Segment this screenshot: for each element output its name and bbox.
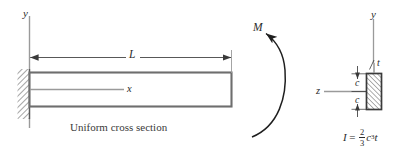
moment-arc	[252, 34, 285, 138]
moment-label: M	[253, 22, 263, 34]
cantilever-beam-figure: y L x Uniform cross section M y z c c t …	[0, 0, 403, 151]
formula-denominator: 3	[359, 138, 365, 147]
thickness-label: t	[377, 58, 380, 68]
fixed-support-wall	[18, 69, 30, 119]
formula-fraction: 2 3	[359, 128, 365, 147]
formula-equals: =	[349, 132, 355, 143]
formula-numerator: 2	[359, 128, 365, 137]
formula-lhs: I	[343, 132, 347, 143]
cross-section-rectangle	[367, 74, 382, 110]
thickness-dimension	[370, 60, 375, 73]
span-length-label: L	[129, 49, 135, 61]
c-dimension-lower	[352, 104, 367, 117]
c-upper-label: c	[355, 78, 359, 88]
moment-of-inertia-formula: I = 2 3 c 3 t	[343, 128, 378, 147]
figure-caption: Uniform cross section	[70, 122, 167, 133]
y-axis-left-label: y	[23, 8, 28, 19]
z-axis-label: z	[316, 86, 320, 97]
c-lower-label: c	[355, 95, 359, 105]
x-axis-label: x	[127, 84, 132, 95]
y-axis-right-label: y	[371, 9, 376, 20]
formula-var-t: t	[375, 132, 378, 143]
